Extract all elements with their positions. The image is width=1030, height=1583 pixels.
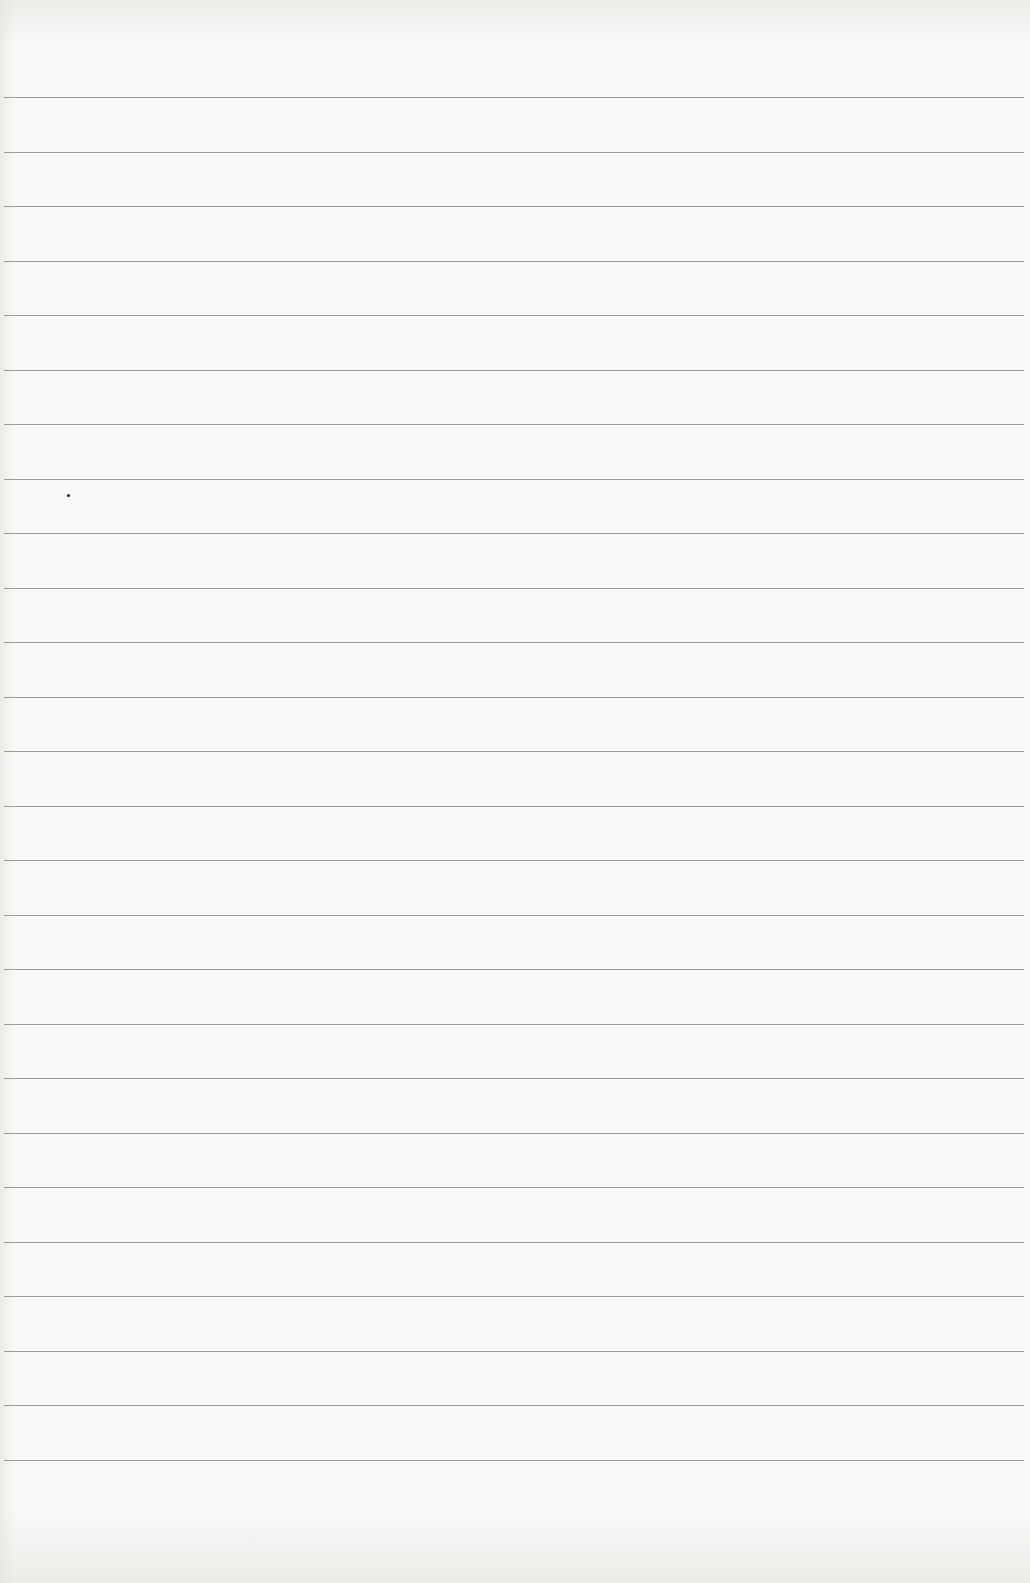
ink-speck (67, 494, 70, 497)
ruled-line (4, 588, 1024, 589)
ruled-line (4, 479, 1024, 480)
ruled-line (4, 1351, 1024, 1352)
ruled-line (4, 424, 1024, 425)
ruled-line (4, 1460, 1024, 1461)
ruled-line (4, 751, 1024, 752)
ruled-line (4, 1296, 1024, 1297)
ruled-line (4, 697, 1024, 698)
ruled-line (4, 1024, 1024, 1025)
ruled-line (4, 1078, 1024, 1079)
ruled-line (4, 206, 1024, 207)
ruled-line (4, 1133, 1024, 1134)
ruled-line (4, 533, 1024, 534)
ruled-line (4, 915, 1024, 916)
ruled-line (4, 806, 1024, 807)
ruled-line (4, 1405, 1024, 1406)
lined-paper-page (0, 0, 1030, 1583)
ruled-line (4, 860, 1024, 861)
ruled-line (4, 370, 1024, 371)
ruled-line (4, 152, 1024, 153)
ruled-line (4, 261, 1024, 262)
ruled-line (4, 1242, 1024, 1243)
ruled-line (4, 97, 1024, 98)
ruled-line (4, 1187, 1024, 1188)
ruled-line (4, 642, 1024, 643)
ruled-line (4, 969, 1024, 970)
ruled-line (4, 315, 1024, 316)
